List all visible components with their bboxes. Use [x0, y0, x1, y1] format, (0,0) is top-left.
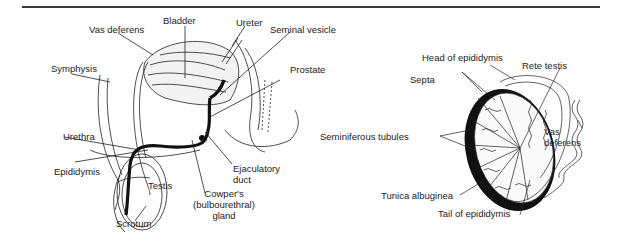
label-seminiferous-tubules: Seminiferous tubules — [320, 131, 409, 142]
label-testis: Testis — [148, 180, 172, 191]
bladder-shape — [144, 41, 239, 104]
label-scrotum: Scrotum — [116, 218, 151, 229]
label-septa: Septa — [410, 74, 435, 85]
label-ejaculatory-duct-line2: duct — [233, 174, 251, 185]
label-prostate: Prostate — [290, 64, 325, 75]
label-bladder: Bladder — [163, 15, 196, 26]
label-tail-of-epididymis: Tail of epididymis — [438, 208, 510, 219]
label-seminal-vesicle: Seminal vesicle — [270, 24, 336, 35]
label-symphysis: Symphysis — [51, 63, 97, 74]
label-cowpers-line3: gland — [190, 210, 258, 221]
label-ejaculatory-duct-line1: Ejaculatory — [233, 163, 280, 174]
label-cowpers-line2: (bulbourethral) — [190, 199, 258, 210]
label-tunica-albuginea: Tunica albuginea — [381, 190, 453, 201]
label-vas-deferens-line2: deferens — [544, 137, 581, 148]
label-vas-deferens-line1: Vas — [544, 126, 560, 137]
label-epididymis: Epididymis — [54, 166, 100, 177]
label-ureter: Ureter — [236, 17, 262, 28]
label-vas-deferens: Vas deferens — [89, 24, 144, 35]
label-urethra: Urethra — [63, 131, 95, 142]
label-cowpers-line1: Cowper's — [190, 188, 258, 199]
label-head-of-epididymis: Head of epididymis — [422, 52, 503, 63]
anatomy-illustration — [0, 0, 621, 242]
label-rete-testis: Rete testis — [522, 60, 567, 71]
